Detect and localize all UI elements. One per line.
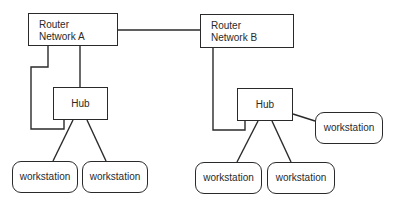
hub-b[interactable]: Hub xyxy=(237,88,293,121)
router-a-label-line2: Network A xyxy=(39,31,117,43)
hub-a[interactable]: Hub xyxy=(53,87,108,120)
workstation-b1[interactable]: workstation xyxy=(195,162,262,194)
ws-b2-label: workstation xyxy=(276,172,327,184)
router-a-label-line1: Router xyxy=(39,19,117,31)
edge-hub-a-ws-a2 xyxy=(87,120,106,161)
ws-a1-label: workstation xyxy=(20,171,71,183)
router-b-label-line2: Network B xyxy=(211,32,293,44)
edge-hub-b-ws-b2 xyxy=(272,121,291,162)
ws-b1-label: workstation xyxy=(203,172,254,184)
workstation-a1[interactable]: workstation xyxy=(12,161,78,193)
edge-hub-a-ws-a1 xyxy=(53,120,73,161)
workstation-a2[interactable]: workstation xyxy=(82,161,148,193)
router-network-b[interactable]: Router Network B xyxy=(200,14,294,48)
edge-hub-b-ws-b3 xyxy=(293,114,315,121)
ws-b3-label: workstation xyxy=(324,122,375,134)
router-b-label-line1: Router xyxy=(211,20,293,32)
hub-a-label: Hub xyxy=(71,98,89,110)
hub-b-label: Hub xyxy=(256,99,274,111)
router-network-a[interactable]: Router Network A xyxy=(28,13,118,46)
edge-hub-b-ws-b1 xyxy=(237,121,258,162)
workstation-b2[interactable]: workstation xyxy=(267,162,335,194)
workstation-b3[interactable]: workstation xyxy=(315,112,383,144)
ws-a2-label: workstation xyxy=(90,171,141,183)
